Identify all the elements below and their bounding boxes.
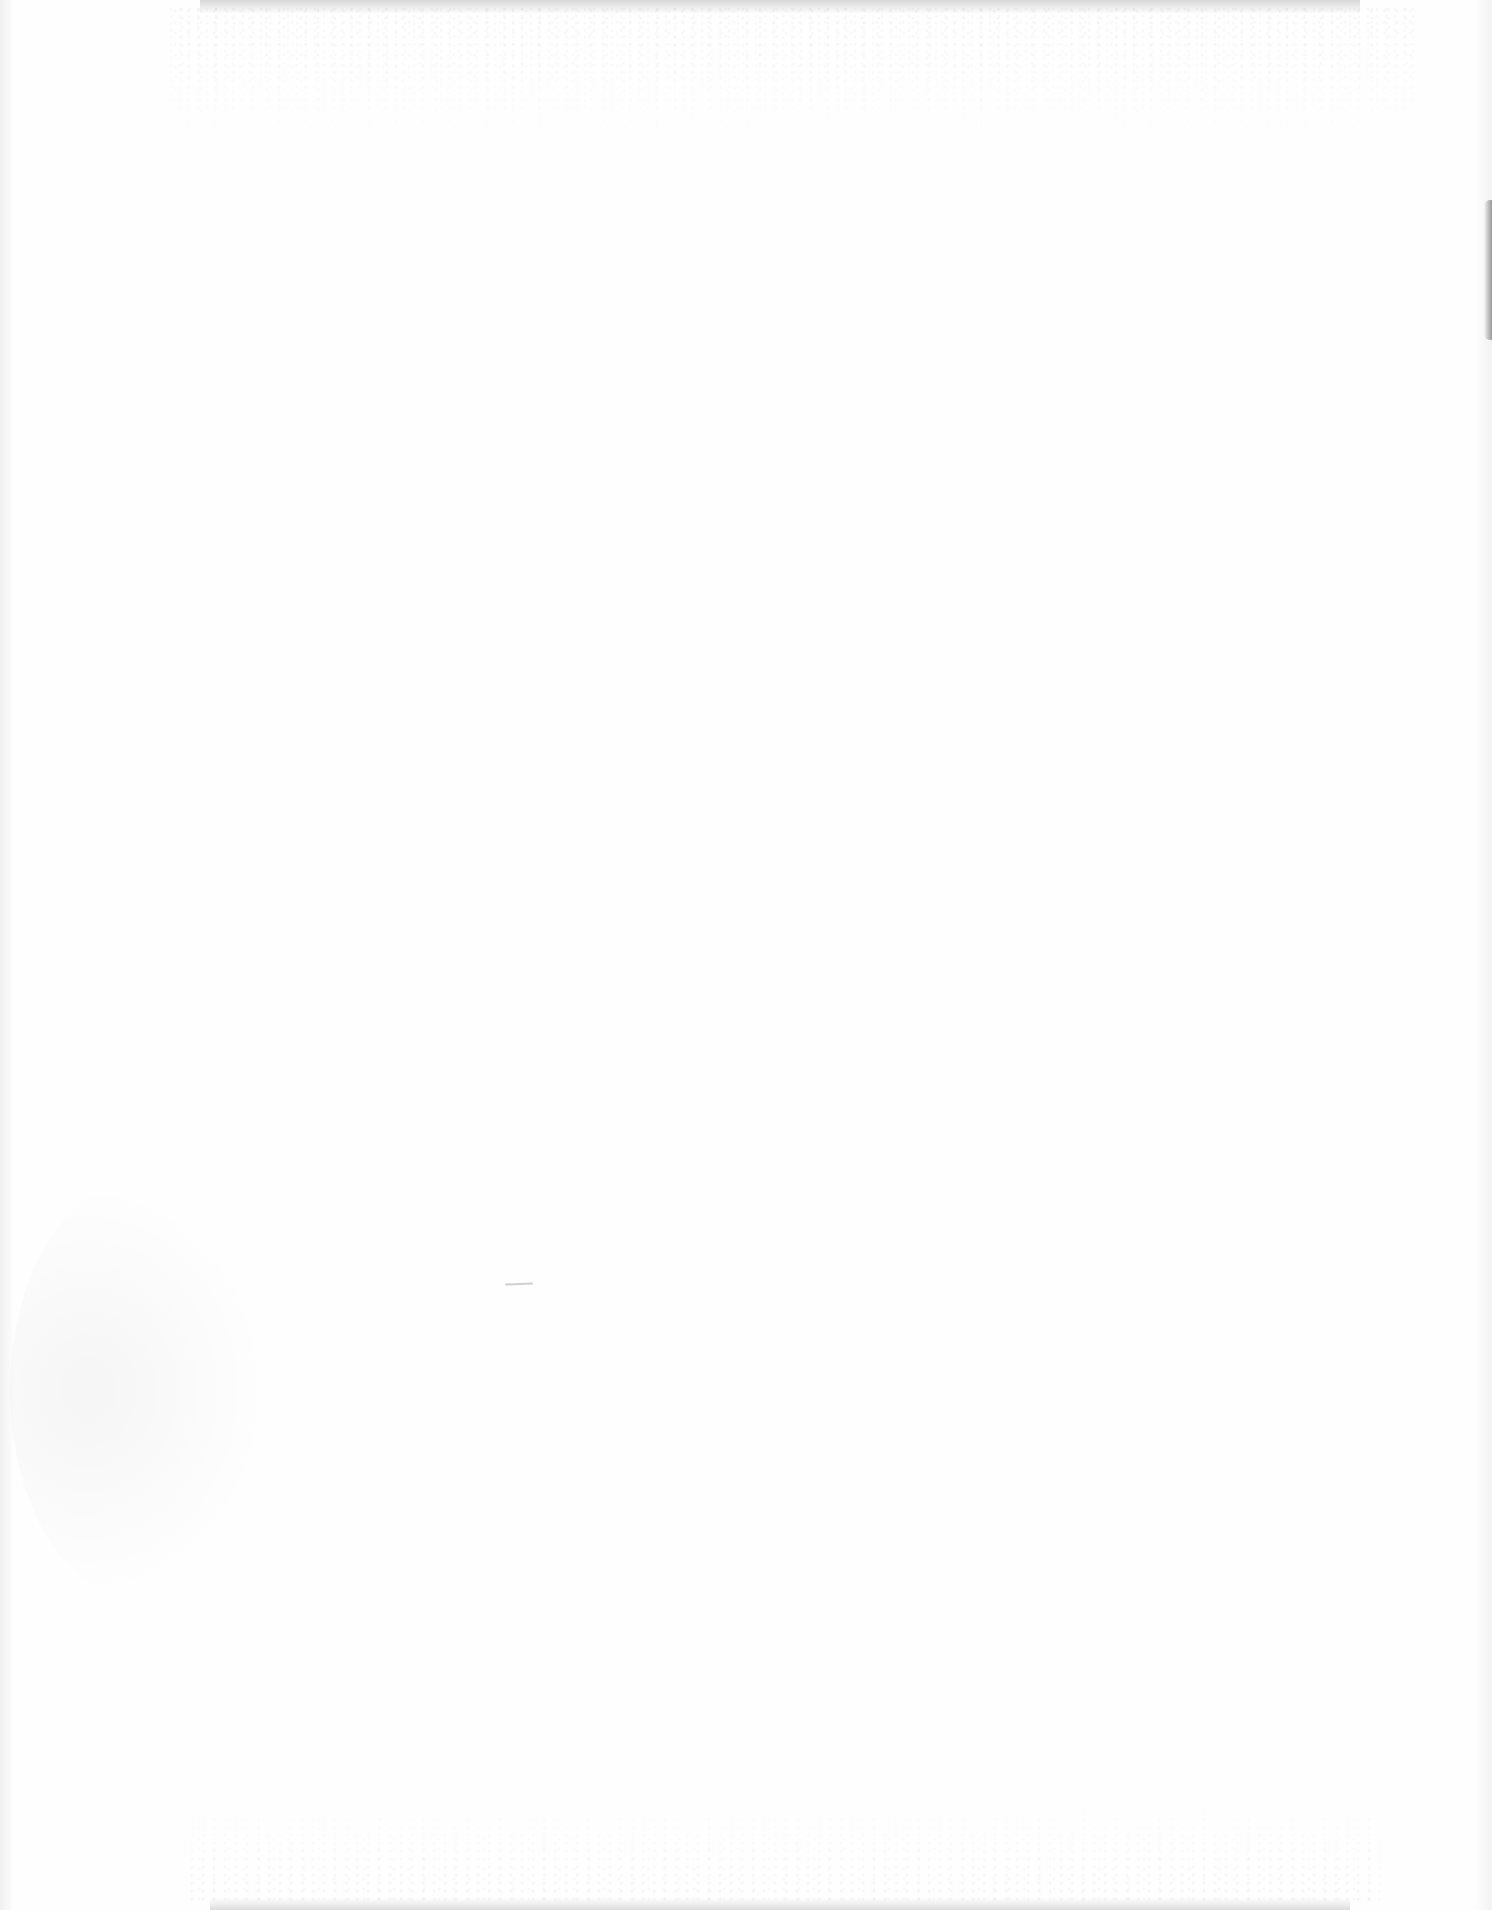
bottom-scan-speckle bbox=[190, 1792, 1380, 1902]
right-edge-mark bbox=[1484, 200, 1492, 340]
faint-scratch-mark bbox=[505, 1283, 533, 1286]
bottom-scan-shadow bbox=[210, 1898, 1350, 1910]
left-smudge bbox=[10, 1180, 270, 1600]
blank-scanned-page bbox=[0, 0, 1492, 1910]
top-scan-speckle bbox=[170, 8, 1420, 148]
left-edge-shading bbox=[0, 0, 14, 1910]
